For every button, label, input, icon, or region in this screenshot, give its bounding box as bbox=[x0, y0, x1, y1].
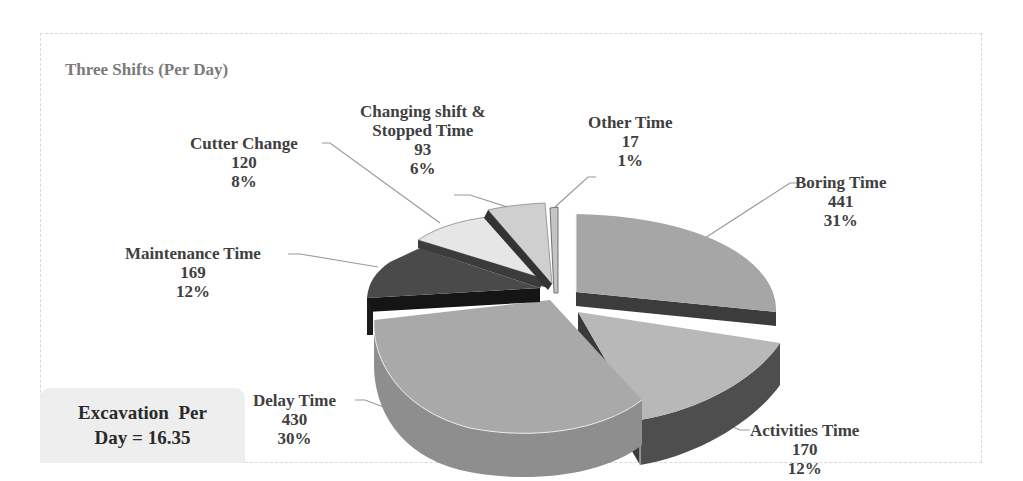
excavation-note-box: Excavation Per Day = 16.35 bbox=[40, 388, 245, 463]
label-maintenance-time: Maintenance Time 169 12% bbox=[125, 244, 261, 301]
label-name: Maintenance Time bbox=[125, 244, 261, 263]
label-name: Boring Time bbox=[795, 173, 886, 192]
label-value: 169 bbox=[125, 263, 261, 282]
label-other-time: Other Time 17 1% bbox=[588, 113, 673, 170]
label-value: 120 bbox=[190, 153, 298, 172]
label-changing-shift: Changing shift & Stopped Time 93 6% bbox=[360, 102, 486, 178]
label-percent: 12% bbox=[750, 459, 859, 478]
label-activities-time: Activities Time 170 12% bbox=[750, 421, 859, 478]
label-value: 441 bbox=[795, 192, 886, 211]
label-name-line1: Changing shift & bbox=[360, 102, 486, 121]
note-line-1: Excavation Per bbox=[40, 400, 245, 425]
label-name: Cutter Change bbox=[190, 134, 298, 153]
label-value: 93 bbox=[360, 140, 486, 159]
label-percent: 30% bbox=[253, 429, 336, 448]
label-cutter-change: Cutter Change 120 8% bbox=[190, 134, 298, 191]
label-value: 430 bbox=[253, 410, 336, 429]
label-percent: 6% bbox=[360, 159, 486, 178]
label-name: Other Time bbox=[588, 113, 673, 132]
label-value: 170 bbox=[750, 440, 859, 459]
label-name-line2: Stopped Time bbox=[360, 121, 486, 140]
label-value: 17 bbox=[588, 132, 673, 151]
note-line-2: Day = 16.35 bbox=[40, 425, 245, 450]
label-percent: 12% bbox=[125, 282, 261, 301]
label-name: Delay Time bbox=[253, 391, 336, 410]
slice-boring-time[interactable] bbox=[576, 214, 776, 326]
label-percent: 31% bbox=[795, 211, 886, 230]
label-percent: 8% bbox=[190, 172, 298, 191]
label-percent: 1% bbox=[588, 151, 673, 170]
label-name: Activities Time bbox=[750, 421, 859, 440]
label-boring-time: Boring Time 441 31% bbox=[795, 173, 886, 230]
label-delay-time: Delay Time 430 30% bbox=[253, 391, 336, 448]
